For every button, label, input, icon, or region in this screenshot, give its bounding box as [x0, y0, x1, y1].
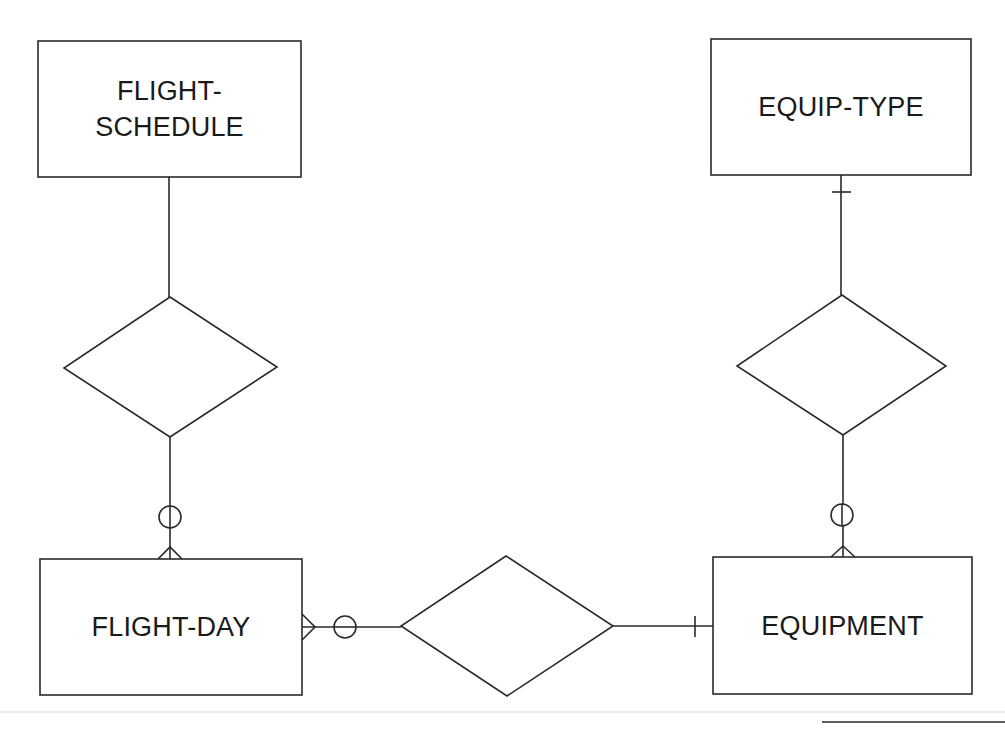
relationship-day-equipment-diamond[interactable]: [401, 556, 613, 696]
entity-equipment-label-text: EQUIPMENT: [761, 608, 923, 644]
entity-equip-type-label: EQUIP-TYPE: [711, 39, 971, 175]
entity-equipment-label: EQUIPMENT: [713, 557, 972, 694]
entity-flight-schedule-label-line1: FLIGHT-: [117, 73, 222, 109]
entity-flight-schedule-label-line2: SCHEDULE: [95, 109, 244, 145]
relationship-type-equipment-diamond[interactable]: [737, 295, 946, 435]
entity-flight-day-label-text: FLIGHT-DAY: [91, 609, 250, 645]
entity-equip-type-label-text: EQUIP-TYPE: [758, 89, 924, 125]
relationship-schedule-day-diamond[interactable]: [64, 297, 277, 437]
entity-flight-schedule-label: FLIGHT- SCHEDULE: [38, 41, 301, 177]
entity-flight-day-label: FLIGHT-DAY: [40, 559, 302, 695]
